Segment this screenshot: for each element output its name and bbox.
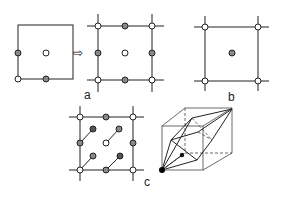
panel-c-label: c (144, 175, 150, 189)
panel-c-lattice (69, 106, 144, 181)
panel-b-label: b (228, 90, 235, 104)
panel-a-lattice (87, 14, 164, 92)
lattice-diagram: ⇨ a b (0, 0, 283, 199)
panel-a-primitive-cell (15, 25, 73, 82)
cube-rhombohedron (159, 108, 232, 173)
panel-a-label: a (84, 88, 91, 102)
panel-b-lattice (194, 16, 269, 91)
transform-arrow-icon: ⇨ (73, 46, 83, 60)
